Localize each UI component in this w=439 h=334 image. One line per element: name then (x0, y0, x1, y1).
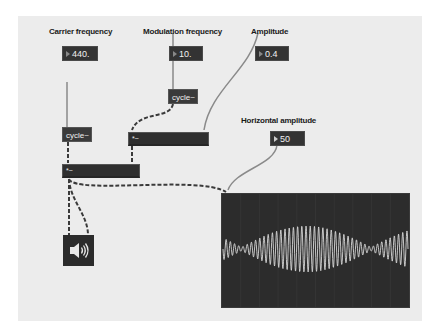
cord-horiz-to-scope[interactable] (228, 145, 277, 190)
cord-mul-to-scope[interactable] (69, 179, 226, 192)
ezdac-speaker-button[interactable] (63, 235, 94, 266)
number-box-triangle-icon (274, 136, 278, 142)
oscilloscope-trace (222, 194, 409, 307)
modulation-frequency-value: 10. (179, 49, 192, 59)
amplitude-number-box[interactable]: 0.4 (255, 46, 289, 61)
number-box-triangle-icon (173, 51, 177, 57)
carrier-frequency-value: 440. (72, 49, 90, 59)
label-carrier-frequency: Carrier frequency (49, 27, 112, 36)
carrier-frequency-number-box[interactable]: 440. (62, 46, 98, 61)
label-horizontal-amplitude: Horizontal amplitude (241, 116, 316, 125)
horizontal-amplitude-number-box[interactable]: 50 (270, 131, 305, 146)
modulation-multiply-object[interactable]: *~ (128, 132, 209, 146)
number-box-triangle-icon (66, 51, 70, 57)
cord-mul-to-dac-right[interactable] (69, 179, 88, 235)
label-amplitude: Amplitude (251, 27, 288, 36)
number-box-triangle-icon (259, 51, 263, 57)
modulation-frequency-number-box[interactable]: 10. (169, 46, 203, 61)
modulation-cycle-object[interactable]: cycle~ (168, 89, 198, 104)
carrier-cycle-object[interactable]: cycle~ (62, 127, 92, 142)
amplitude-value: 0.4 (265, 49, 278, 59)
label-modulation-frequency: Modulation frequency (143, 27, 222, 36)
speaker-icon (63, 235, 94, 266)
oscilloscope-display[interactable] (221, 193, 410, 308)
cord-modcycle-to-mul[interactable] (132, 104, 173, 130)
carrier-multiply-object[interactable]: *~ (62, 164, 140, 178)
horizontal-amplitude-value: 50 (280, 134, 290, 144)
